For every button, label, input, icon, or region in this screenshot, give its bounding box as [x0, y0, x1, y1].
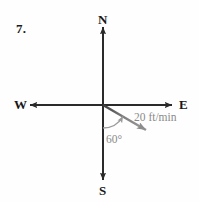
- compass-vector-svg: [0, 0, 199, 202]
- compass-label-south: S: [99, 184, 106, 197]
- compass-label-west: W: [14, 98, 27, 111]
- compass-label-north: N: [98, 13, 107, 26]
- problem-number: 7.: [16, 22, 26, 35]
- vector-diagram-figure: 7. N S W E 20 ft/min 60°: [0, 0, 199, 202]
- vector-magnitude-label: 20 ft/min: [134, 112, 177, 124]
- compass-label-east: E: [179, 98, 188, 111]
- angle-measure-label: 60°: [106, 134, 122, 146]
- angle-arc: [103, 117, 123, 129]
